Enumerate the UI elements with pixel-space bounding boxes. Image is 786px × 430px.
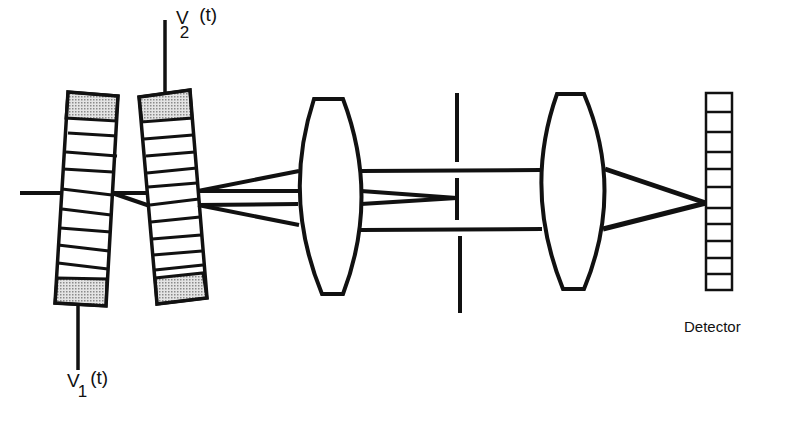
- detector-array: [706, 93, 732, 290]
- aperture: [457, 93, 460, 313]
- v2-argument: (t): [199, 4, 217, 25]
- focused-beams: [603, 169, 706, 229]
- lens-1: [300, 99, 362, 294]
- lens1-output-beams: [361, 170, 542, 230]
- modulator-1: [55, 92, 118, 370]
- v2-label: V2(t): [176, 8, 217, 27]
- v1-label: V1(t): [67, 371, 108, 390]
- v1-subscript: 1: [78, 382, 87, 401]
- v2-subscript: 2: [180, 23, 189, 42]
- inter-modulator-beams: [112, 193, 150, 206]
- optical-setup-diagram: [0, 0, 786, 430]
- v1-argument: (t): [90, 367, 108, 388]
- modulator-1-body: [55, 92, 118, 306]
- modulator-2: [139, 20, 207, 304]
- detector-label: Detector: [684, 318, 741, 335]
- diffracted-beams: [198, 171, 299, 225]
- lens-2: [541, 94, 604, 289]
